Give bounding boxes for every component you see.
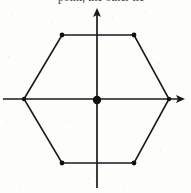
vertex-bottom-right [132, 161, 137, 166]
vertex-right [167, 97, 171, 101]
vertex-bottom-left [60, 161, 65, 166]
origin-point-marker [93, 96, 101, 104]
vertex-top-left [60, 33, 65, 38]
vertex-top-right [132, 33, 137, 38]
vertex-left [22, 97, 26, 101]
hexagon-on-axes-figure [0, 0, 191, 193]
figure-page: point, the other lie x-axis y-axis origi… [0, 0, 191, 193]
